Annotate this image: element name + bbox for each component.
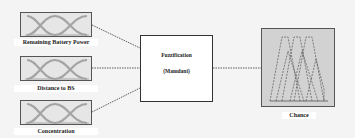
connector-battery-to-fuzzification (92, 25, 140, 48)
input-box-remaining-battery-power (20, 12, 92, 37)
fuzzification-title: Fuzzification (141, 52, 212, 58)
output-label-chance: Chance (282, 112, 316, 119)
output-membership-functions-icon (262, 29, 336, 108)
fuzzification-subtitle: (Mamdani) (141, 68, 212, 74)
input-label-concentration: Concentration (14, 128, 98, 135)
output-box-chance (261, 28, 335, 107)
membership-function-icon (21, 101, 93, 126)
connector-concentration-to-fuzzification (92, 88, 140, 112)
fuzzification-box: Fuzzification (Mamdani) (140, 35, 213, 102)
membership-function-icon (21, 57, 93, 82)
membership-function-icon (21, 13, 93, 38)
input-box-concentration (20, 100, 92, 125)
input-label-remaining-battery-power: Remaining Battery Power (14, 39, 98, 46)
input-box-distance-to-bs (20, 56, 92, 81)
input-label-distance-to-bs: Distance to BS (14, 85, 98, 92)
